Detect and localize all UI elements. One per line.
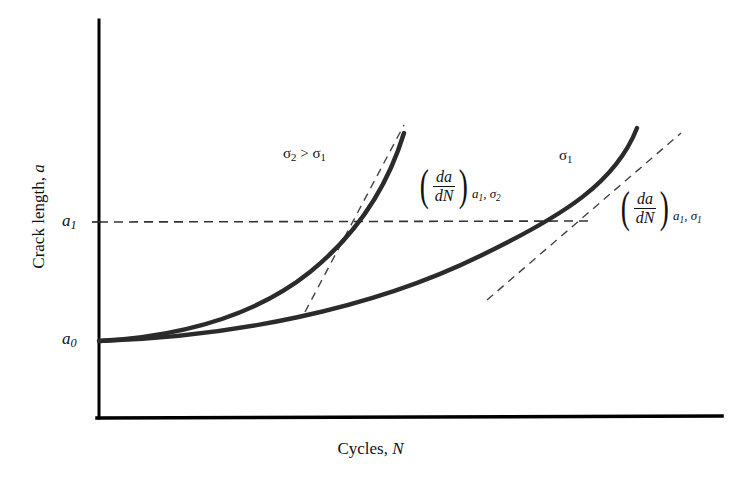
- derivative-numerator-sigma2: da: [434, 168, 454, 185]
- x-axis-label-symbol: N: [392, 439, 403, 458]
- tick-a0-base: a: [62, 329, 71, 348]
- y-tick-label-a0: a0: [62, 330, 77, 350]
- derivative-denominator-sigma2: dN: [433, 186, 456, 204]
- fatigue-crack-growth-figure: Crack length, a Cycles, N a1 a0 σ2 > σ1 …: [0, 0, 741, 481]
- x-axis-label: Cycles, N: [0, 440, 741, 457]
- greater-than-symbol: >: [297, 145, 313, 161]
- right-paren-glyph: ): [660, 190, 669, 226]
- sigma1-subscript: 1: [321, 151, 326, 163]
- derivative-subscript-sigma1: a1, σ1: [672, 208, 702, 226]
- plot-canvas: [0, 0, 741, 481]
- y-tick-label-a1: a1: [62, 212, 77, 232]
- curve-label-sigma1-base: σ: [559, 147, 567, 163]
- derivative-label-sigma2: ( da dN ) a1, σ2: [417, 168, 501, 204]
- tick-a1-subscript: 1: [71, 218, 77, 232]
- x-axis: [97, 416, 722, 418]
- subscript-sigma-index-sigma2: 2: [496, 193, 501, 203]
- y-axis-label-symbol: a: [29, 164, 48, 173]
- y-axis-label: Crack length, a: [30, 117, 47, 317]
- sigma2-base: σ: [283, 145, 291, 161]
- derivative-denominator-sigma1: dN: [634, 208, 657, 226]
- left-paren-glyph: (: [621, 190, 630, 226]
- subscript-sigma-index-sigma1: 1: [697, 215, 702, 225]
- derivative-fraction-sigma1: da dN: [633, 190, 658, 226]
- sigma1-base: σ: [312, 145, 320, 161]
- tick-a1-base: a: [62, 211, 71, 230]
- curve-label-sigma1-subscript: 1: [567, 153, 572, 165]
- a1-reference-line: [99, 221, 588, 222]
- left-paren-glyph: (: [420, 168, 429, 204]
- derivative-label-sigma1: ( da dN ) a1, σ1: [618, 190, 702, 226]
- derivative-numerator-sigma1: da: [635, 190, 655, 207]
- x-axis-label-text: Cycles,: [337, 439, 392, 458]
- right-paren-glyph: ): [459, 168, 468, 204]
- y-axis-label-text: Crack length,: [29, 173, 48, 269]
- curve-label-sigma1: σ1: [559, 148, 573, 165]
- stress-comparison-annotation: σ2 > σ1: [283, 146, 326, 163]
- derivative-subscript-sigma2: a1, σ2: [471, 186, 501, 204]
- crack-growth-curve-sigma2: [99, 133, 404, 341]
- crack-growth-curve-sigma1: [99, 128, 637, 341]
- tick-a0-subscript: 0: [71, 336, 77, 350]
- derivative-fraction-sigma2: da dN: [432, 168, 457, 204]
